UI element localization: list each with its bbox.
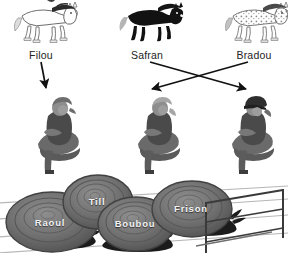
horse-label-safran: Safran — [131, 49, 163, 61]
snail-label-frison: Frison — [174, 203, 208, 214]
horse-label-bradou: Bradou — [236, 49, 271, 61]
snail-label-boubou: Boubou — [115, 218, 156, 229]
text-layer: Filou Safran Bradou Raoul Till Boubou Fr… — [0, 0, 288, 253]
snail-label-till: Till — [89, 196, 106, 207]
horse-label-filou: Filou — [29, 49, 53, 61]
snail-label-raoul: Raoul — [35, 217, 65, 228]
illustration-canvas: Filou Safran Bradou Raoul Till Boubou Fr… — [0, 0, 288, 253]
